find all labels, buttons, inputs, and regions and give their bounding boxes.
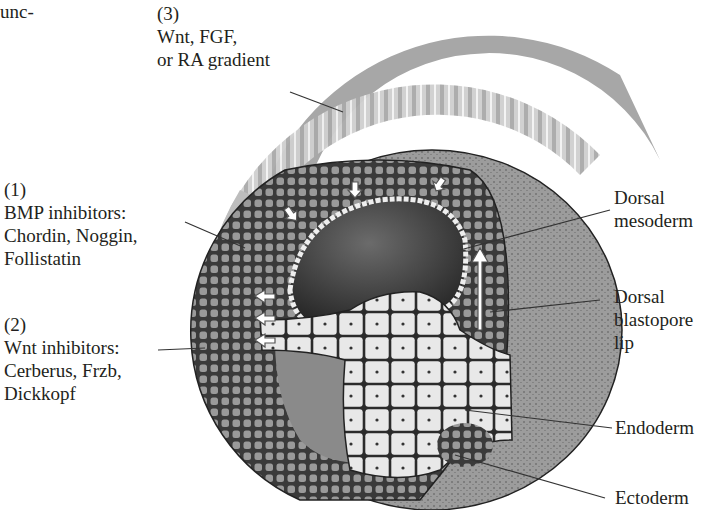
signal-line: Follistatin [4,247,138,270]
structure-line: lip [614,331,693,354]
label-signal-2: (2) Wnt inhibitors: Cerberus, Frzb, Dick… [4,313,122,405]
label-ectoderm: Ectoderm [615,486,689,509]
signal-line: BMP inhibitors: [4,201,138,224]
signal-line: Wnt inhibitors: [4,336,122,359]
signal-line: Dickkopf [4,382,122,405]
partial-caption-text: unc- [0,0,34,23]
structure-line: mesoderm [614,209,693,232]
label-dorsal-mesoderm: Dorsal mesoderm [614,186,693,232]
label-signal-3: (3) Wnt, FGF, or RA gradient [157,2,270,71]
structure-line: Ectoderm [615,486,689,509]
label-endoderm: Endoderm [615,416,694,439]
label-signal-1: (1) BMP inhibitors: Chordin, Noggin, Fol… [4,178,138,270]
signal-number: (1) [4,178,138,201]
structure-line: blastopore [614,308,693,331]
signal-number: (3) [157,2,270,25]
blastopore-knob [437,423,493,467]
structure-line: Dorsal [614,285,693,308]
signal-number: (2) [4,313,122,336]
structure-line: Endoderm [615,416,694,439]
caption-fragment: unc- [0,0,34,23]
signal-line: Chordin, Noggin, [4,224,138,247]
signal-line: Cerberus, Frzb, [4,359,122,382]
label-dorsal-blastopore-lip: Dorsal blastopore lip [614,285,693,354]
signal-line: Wnt, FGF, [157,25,270,48]
structure-line: Dorsal [614,186,693,209]
signal-line: or RA gradient [157,48,270,71]
